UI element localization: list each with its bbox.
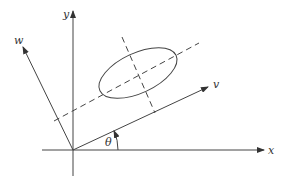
w-axis <box>23 47 73 150</box>
x-axis-label: x <box>268 144 275 157</box>
theta-label: θ <box>105 136 112 149</box>
ellipse-major-axis-dashed <box>54 43 199 121</box>
y-axis-label: y <box>62 8 70 21</box>
ellipse <box>91 37 184 109</box>
rotated-axes-diagram: y x v w θ <box>0 0 291 177</box>
v-axis-label: v <box>213 78 220 91</box>
v-axis <box>73 87 208 150</box>
w-axis-label: w <box>14 34 24 47</box>
theta-arc <box>114 131 118 150</box>
